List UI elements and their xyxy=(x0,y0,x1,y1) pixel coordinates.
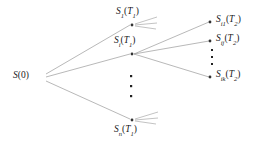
scenario-tree-figure: S(0) S1(T1) Si(T1) Sn(T1) Si1(T2) Sij(T2… xyxy=(0,0,257,148)
ellipsis-dot xyxy=(130,85,132,87)
ellipsis-dot xyxy=(130,75,132,77)
stub-fan-s1 xyxy=(135,17,157,29)
edge-si-to-sik xyxy=(134,54,209,77)
edge-root-to-si xyxy=(46,54,130,77)
sijt2-time-subscript: 2 xyxy=(233,39,236,46)
node-dot-group xyxy=(131,21,212,122)
stub-sn-b xyxy=(135,118,158,120)
stub-sn-c xyxy=(135,121,156,124)
stub-fan-sn xyxy=(135,112,158,124)
ellipsis-dot xyxy=(211,49,213,51)
root-argument: (0) xyxy=(18,70,29,80)
sit1-subscript: i xyxy=(119,41,121,48)
sikt2-time-subscript: 2 xyxy=(234,75,237,82)
s1t1-time-subscript: 1 xyxy=(133,12,136,19)
si1t2-subscript: i1 xyxy=(221,20,226,27)
node-label-sikt2: Sik(T2) xyxy=(216,70,240,80)
ellipsis-stage1 xyxy=(130,75,132,97)
ellipsis-dot xyxy=(211,56,213,58)
snt1-subscript: n xyxy=(119,130,122,137)
sikt2-subscript: ik xyxy=(221,75,226,82)
node-dot-si1t2 xyxy=(209,21,212,24)
stub-s1-c xyxy=(135,26,156,29)
stub-sn-a xyxy=(135,112,158,119)
edge-root-to-sn xyxy=(46,81,130,119)
sit1-time-subscript: 1 xyxy=(129,41,132,48)
edge-si-to-si1 xyxy=(134,22,209,54)
s1t1-subscript: 1 xyxy=(121,12,124,19)
ellipsis-stage2 xyxy=(211,49,213,65)
node-label-root: S(0) xyxy=(13,71,29,81)
node-dot-snt1 xyxy=(131,119,134,122)
stub-s1-a xyxy=(135,17,157,24)
stub-s1-b xyxy=(135,23,157,25)
node-dot-sijt2 xyxy=(209,40,212,43)
node-label-si1t2: Si1(T2) xyxy=(216,15,241,25)
edge-si-to-sij xyxy=(134,41,209,54)
ellipsis-dot xyxy=(211,63,213,65)
edge-group-stage2 xyxy=(134,22,209,77)
si1t2-time-subscript: 2 xyxy=(234,20,237,27)
node-dot-sikt2 xyxy=(209,76,212,79)
ellipsis-dot xyxy=(130,95,132,97)
snt1-time-subscript: 1 xyxy=(131,130,134,137)
node-label-sijt2: Sij(T2) xyxy=(216,34,239,44)
node-label-s1t1: S1(T1) xyxy=(116,7,139,17)
node-dot-s1t1 xyxy=(131,24,134,27)
node-label-snt1: Sn(T1) xyxy=(114,125,137,135)
edge-root-to-s1 xyxy=(46,25,130,74)
node-label-sit1: Si(T1) xyxy=(114,36,136,46)
sijt2-subscript: ij xyxy=(221,39,225,46)
node-dot-sit1 xyxy=(131,53,134,56)
